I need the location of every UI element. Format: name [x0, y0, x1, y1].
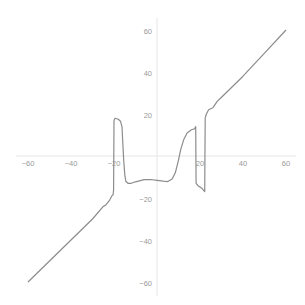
x-tick-label: −60 — [22, 159, 35, 168]
y-tick-label: −20 — [139, 195, 152, 204]
x-tick-label: 40 — [239, 159, 247, 168]
x-tick-label: −40 — [65, 159, 78, 168]
x-tick-label: 20 — [196, 159, 204, 168]
x-tick-label: 60 — [282, 159, 290, 168]
y-tick-label: −40 — [139, 237, 152, 246]
y-tick-labels: 60 40 20 −20 −40 −60 — [139, 27, 152, 288]
x-tick-labels: −60 −40 −20 20 40 60 — [22, 159, 291, 168]
y-tick-label: −60 — [139, 279, 152, 288]
y-tick-label: 40 — [144, 69, 152, 78]
y-tick-label: 60 — [144, 27, 152, 36]
y-tick-label: 20 — [144, 111, 152, 120]
line-chart: −60 −40 −20 20 40 60 60 40 20 −20 −40 −6… — [0, 0, 305, 305]
